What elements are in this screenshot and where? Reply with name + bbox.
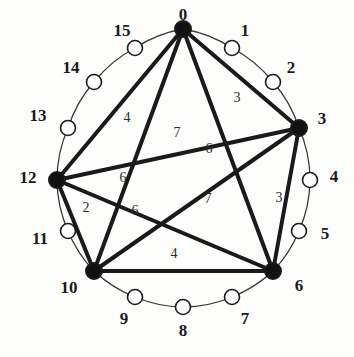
vertex-label-1: 1	[241, 22, 250, 39]
filled-vertex-10[interactable]	[86, 263, 102, 279]
edge-weight-3-12: 7	[174, 126, 181, 140]
vertex-label-5: 5	[321, 225, 330, 242]
vertex-label-3: 3	[318, 110, 327, 127]
edge-0-10	[94, 29, 183, 271]
edge-weight-3-6: 3	[276, 191, 283, 205]
open-vertex-9[interactable]	[128, 290, 143, 305]
open-vertex-13[interactable]	[61, 121, 76, 136]
vertex-label-0: 0	[179, 6, 188, 23]
open-vertex-8[interactable]	[176, 300, 191, 315]
open-vertex-4[interactable]	[303, 173, 318, 188]
edge-weight-0-3: 3	[234, 91, 241, 105]
open-vertex-2[interactable]	[266, 75, 281, 90]
vertex-label-7: 7	[241, 310, 250, 327]
filled-vertex-12[interactable]	[49, 172, 65, 188]
vertex-label-12: 12	[20, 169, 37, 186]
vertex-label-6: 6	[295, 277, 304, 294]
edge-weight-3-10: 7	[205, 192, 212, 206]
graph-figure: 0123456789101112131415 3342466776	[0, 0, 354, 357]
edge-weight-6-12: 6	[132, 204, 139, 218]
filled-vertex-6[interactable]	[265, 263, 281, 279]
edge-weight-6-10: 4	[171, 247, 178, 261]
vertex-label-13: 13	[30, 107, 47, 124]
vertex-label-2: 2	[287, 59, 296, 76]
filled-vertex-3[interactable]	[291, 120, 307, 136]
open-vertex-5[interactable]	[292, 224, 307, 239]
open-vertex-7[interactable]	[225, 290, 240, 305]
edge-weight-0-10: 6	[120, 171, 127, 185]
edge-weight-0-6: 6	[206, 142, 213, 156]
edge-weight-10-12: 2	[83, 201, 90, 215]
vertex-label-4: 4	[330, 168, 339, 185]
vertex-label-10: 10	[61, 279, 78, 296]
vertex-label-11: 11	[32, 230, 48, 247]
open-vertex-11[interactable]	[61, 224, 76, 239]
edge-weight-12-0: 4	[124, 111, 131, 125]
open-vertex-14[interactable]	[87, 75, 102, 90]
edge-layer	[57, 29, 299, 271]
vertex-label-15: 15	[114, 22, 131, 39]
vertex-label-14: 14	[63, 59, 80, 76]
vertex-label-9: 9	[120, 310, 129, 327]
graph-canvas	[0, 0, 354, 357]
vertex-label-8: 8	[179, 322, 188, 339]
open-vertex-1[interactable]	[225, 41, 240, 56]
open-vertex-15[interactable]	[128, 41, 143, 56]
